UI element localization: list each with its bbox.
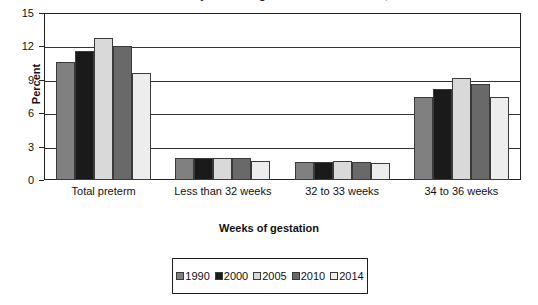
legend-label: 1990 xyxy=(185,270,209,282)
bar xyxy=(175,158,194,180)
bars-layer xyxy=(44,13,521,180)
y-tick-mark xyxy=(39,180,44,181)
legend-swatch-icon xyxy=(215,272,223,280)
y-tick-label: 9 xyxy=(4,75,34,85)
bar xyxy=(213,158,232,180)
legend-items: 19902000200520102014 xyxy=(176,270,363,282)
legend-label: 2010 xyxy=(301,270,325,282)
bar xyxy=(232,158,251,180)
y-tick-label: 6 xyxy=(4,108,34,118)
bar xyxy=(113,46,132,180)
bar xyxy=(132,73,151,180)
legend-label: 2000 xyxy=(224,270,248,282)
legend: 19902000200520102014 xyxy=(172,258,368,294)
bar xyxy=(251,161,270,180)
legend-swatch-icon xyxy=(292,272,300,280)
legend-item[interactable]: 1990 xyxy=(176,270,209,282)
bar xyxy=(433,89,452,180)
bar xyxy=(56,62,75,180)
bar xyxy=(295,162,314,180)
bar xyxy=(194,158,213,180)
chart-title: Preterm birth rates by weeks of gestatio… xyxy=(0,0,538,1)
bar-group xyxy=(163,13,282,180)
bar xyxy=(371,163,390,180)
legend-swatch-icon xyxy=(330,272,338,280)
bar xyxy=(352,162,371,180)
legend-swatch-icon xyxy=(176,272,184,280)
legend-label: 2005 xyxy=(262,270,286,282)
bar xyxy=(314,162,333,180)
bar-group xyxy=(44,13,163,180)
bar xyxy=(75,51,94,180)
x-category-label: 32 to 33 weeks xyxy=(283,185,402,197)
bar xyxy=(452,78,471,180)
x-axis-title: Weeks of gestation xyxy=(0,222,538,234)
y-tick-label: 12 xyxy=(4,41,34,51)
bar xyxy=(471,84,490,180)
bar xyxy=(414,97,433,181)
y-tick-label: 0 xyxy=(4,175,34,185)
x-category-label: Less than 32 weeks xyxy=(163,185,282,197)
x-category-label: 34 to 36 weeks xyxy=(402,185,521,197)
chart-title-strip: Preterm birth rates by weeks of gestatio… xyxy=(0,0,538,9)
bar xyxy=(94,38,113,181)
y-tick-label: 3 xyxy=(4,142,34,152)
legend-swatch-icon xyxy=(253,272,261,280)
legend-item[interactable]: 2010 xyxy=(292,270,325,282)
bar-group xyxy=(402,13,521,180)
legend-label: 2014 xyxy=(339,270,363,282)
bar xyxy=(333,161,352,180)
x-category-label: Total preterm xyxy=(44,185,163,197)
legend-item[interactable]: 2000 xyxy=(215,270,248,282)
bar-group xyxy=(283,13,402,180)
bar xyxy=(490,97,509,181)
legend-item[interactable]: 2005 xyxy=(253,270,286,282)
legend-item[interactable]: 2014 xyxy=(330,270,363,282)
y-tick-label: 15 xyxy=(4,8,34,18)
